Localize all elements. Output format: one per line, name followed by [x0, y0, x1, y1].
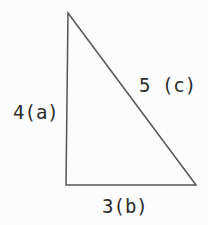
side-b-label: 3(b)	[102, 196, 148, 216]
side-c-label: 5 (c)	[139, 75, 196, 95]
triangle-shape	[66, 13, 196, 185]
triangle-diagram: 4(a) 5 (c) 3(b)	[0, 0, 208, 225]
side-a-label: 4(a)	[13, 102, 59, 122]
